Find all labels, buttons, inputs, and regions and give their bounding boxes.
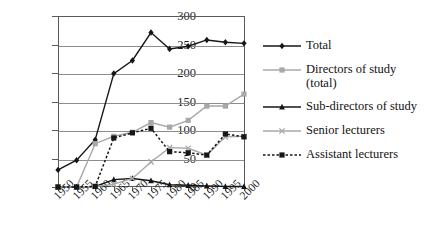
data-point-marker (111, 135, 116, 140)
legend-item-label: Assistant lecturers (306, 147, 398, 161)
data-point-marker (204, 152, 209, 157)
data-point-marker (167, 125, 172, 130)
legend-swatch-icon (262, 124, 302, 138)
series-layer (58, 16, 245, 187)
data-point-marker (148, 120, 153, 125)
data-point-marker (148, 126, 153, 131)
data-point-marker (241, 91, 246, 96)
data-point-marker (241, 40, 246, 46)
legend-swatch-icon (262, 100, 302, 114)
legend-item-label: Directors of study (total) (306, 62, 396, 90)
series-line (58, 33, 244, 170)
legend-item-label: Sub-directors of study (306, 99, 417, 113)
legend-item[interactable]: Sub-directors of study (262, 99, 442, 114)
legend-item[interactable]: Assistant lecturers (262, 147, 442, 162)
line-chart: 300250200150100500 195019551960196519701… (0, 0, 445, 237)
data-point-marker (130, 130, 135, 135)
data-point-marker (223, 103, 228, 108)
data-point-marker (167, 149, 172, 154)
data-point-marker (223, 39, 228, 45)
series-line (58, 94, 244, 187)
legend-item[interactable]: Total (262, 38, 442, 53)
legend-swatch-icon (262, 39, 302, 53)
data-point-marker (186, 150, 191, 155)
data-point-marker (55, 167, 60, 173)
data-point-marker (74, 184, 79, 189)
data-point-marker (93, 141, 98, 146)
data-point-marker (186, 118, 191, 123)
legend-item-label: Total (306, 38, 332, 52)
series-total (55, 29, 246, 173)
legend-item[interactable]: Senior lecturers (262, 123, 442, 138)
data-point-marker (55, 184, 60, 189)
data-point-marker (204, 37, 209, 43)
data-point-marker (111, 70, 116, 76)
legend-item-label: Senior lecturers (306, 123, 385, 137)
legend-item[interactable]: Directors of study (total) (262, 62, 442, 90)
chart-legend: TotalDirectors of study (total)Sub-direc… (262, 38, 442, 171)
data-point-marker (241, 134, 246, 139)
data-point-marker (93, 184, 98, 189)
series-directors-of-study-total (55, 91, 246, 189)
legend-swatch-icon (262, 148, 302, 162)
data-point-marker (186, 43, 191, 49)
data-point-marker (223, 131, 228, 136)
data-point-marker (204, 103, 209, 108)
legend-swatch-icon (262, 63, 302, 77)
data-point-marker (148, 159, 153, 164)
